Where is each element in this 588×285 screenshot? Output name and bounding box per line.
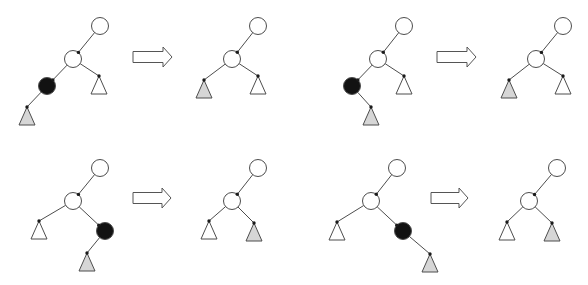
tree-edge bbox=[238, 207, 254, 223]
tree-after bbox=[501, 18, 572, 99]
tree-edge bbox=[377, 207, 397, 225]
tree-before bbox=[31, 160, 114, 272]
tree-edge bbox=[87, 238, 100, 253]
edge-pointer-dot-icon bbox=[202, 78, 205, 81]
edge-pointer-dot-icon bbox=[256, 74, 259, 77]
edge-pointer-dot-icon bbox=[533, 193, 536, 196]
edge-pointer-dot-icon bbox=[97, 223, 100, 226]
tree-edge bbox=[80, 64, 99, 76]
tree-edge bbox=[237, 175, 252, 195]
edge-pointer-dot-icon bbox=[382, 51, 385, 54]
tree-before bbox=[19, 18, 109, 126]
tree-edge bbox=[385, 64, 404, 76]
tree-node-white-icon bbox=[92, 160, 109, 177]
tree-node-white-icon bbox=[389, 160, 406, 177]
tree-edge bbox=[535, 207, 552, 223]
tree-edge bbox=[53, 65, 67, 80]
tree-node-white-icon bbox=[92, 18, 109, 35]
tree-node-white-icon bbox=[250, 18, 267, 35]
edge-pointer-dot-icon bbox=[252, 221, 255, 224]
edge-pointer-dot-icon bbox=[395, 223, 398, 226]
transformation-case-left-right bbox=[344, 18, 572, 126]
subtree-triangle-white-icon bbox=[396, 76, 412, 94]
tree-edge bbox=[78, 33, 94, 53]
tree-edge bbox=[358, 65, 372, 80]
edge-pointer-dot-icon bbox=[37, 219, 40, 222]
subtree-triangle-white-icon bbox=[250, 76, 266, 94]
subtree-triangle-gray-icon bbox=[422, 254, 438, 272]
subtree-triangle-gray-icon bbox=[501, 80, 517, 98]
transform-arrow-icon bbox=[133, 47, 172, 67]
edge-pointer-dot-icon bbox=[236, 193, 239, 196]
transformation-case-right-right bbox=[329, 160, 566, 273]
subtree-triangle-white-icon bbox=[555, 76, 571, 94]
tree-edge bbox=[383, 33, 398, 53]
tree-before bbox=[329, 160, 438, 273]
tree-after bbox=[499, 160, 566, 242]
subtree-triangle-gray-icon bbox=[19, 107, 35, 125]
subtree-triangle-gray-icon bbox=[246, 223, 262, 241]
tree-edge bbox=[39, 205, 66, 221]
edge-pointer-dot-icon bbox=[550, 221, 553, 224]
edge-pointer-dot-icon bbox=[51, 78, 54, 81]
edge-pointer-dot-icon bbox=[507, 78, 510, 81]
tree-edge bbox=[209, 207, 226, 221]
edge-pointer-dot-icon bbox=[25, 105, 28, 108]
transform-arrow-icon bbox=[437, 47, 476, 67]
edge-pointer-dot-icon bbox=[428, 252, 431, 255]
edge-pointer-dot-icon bbox=[97, 74, 100, 77]
tree-edge bbox=[337, 205, 364, 222]
edge-pointer-dot-icon bbox=[236, 51, 239, 54]
edge-pointer-dot-icon bbox=[402, 74, 405, 77]
tree-transformation-diagram bbox=[0, 0, 588, 285]
tree-edge bbox=[376, 175, 391, 195]
transformation-case-right-left bbox=[31, 160, 267, 272]
tree-edge bbox=[204, 64, 225, 80]
tree-edge bbox=[239, 64, 258, 76]
transform-arrow-icon bbox=[133, 188, 171, 208]
tree-edge bbox=[543, 64, 563, 76]
subtree-triangle-white-icon bbox=[329, 222, 345, 240]
tree-edge bbox=[541, 33, 557, 53]
tree-edge bbox=[507, 207, 523, 222]
transformation-case-left-left bbox=[19, 18, 267, 126]
subtree-triangle-gray-icon bbox=[544, 223, 560, 241]
subtree-triangle-gray-icon bbox=[196, 80, 212, 98]
tree-node-white-icon bbox=[549, 160, 566, 177]
edge-pointer-dot-icon bbox=[375, 193, 378, 196]
edge-pointer-dot-icon bbox=[77, 193, 80, 196]
tree-edge bbox=[79, 207, 99, 225]
tree-edge bbox=[237, 33, 252, 53]
edge-pointer-dot-icon bbox=[77, 51, 80, 54]
tree-after bbox=[196, 18, 267, 99]
tree-node-white-icon bbox=[555, 18, 572, 35]
tree-edge bbox=[409, 237, 430, 254]
edge-pointer-dot-icon bbox=[356, 78, 359, 81]
tree-edge bbox=[509, 64, 529, 80]
edge-pointer-dot-icon bbox=[207, 219, 210, 222]
edge-pointer-dot-icon bbox=[540, 51, 543, 54]
subtree-triangle-white-icon bbox=[91, 76, 107, 94]
transform-arrow-icon bbox=[431, 188, 468, 208]
subtree-triangle-gray-icon bbox=[363, 107, 379, 125]
tree-node-white-icon bbox=[396, 18, 413, 35]
subtree-triangle-white-icon bbox=[499, 222, 515, 240]
subtree-triangle-white-icon bbox=[201, 221, 217, 239]
edge-pointer-dot-icon bbox=[561, 74, 564, 77]
subtree-triangle-gray-icon bbox=[79, 253, 95, 271]
tree-edge bbox=[78, 175, 94, 195]
edge-pointer-dot-icon bbox=[505, 220, 508, 223]
tree-edge bbox=[534, 174, 551, 194]
tree-node-white-icon bbox=[250, 160, 267, 177]
edge-pointer-dot-icon bbox=[369, 105, 372, 108]
tree-after bbox=[201, 160, 267, 242]
tree-before bbox=[344, 18, 413, 126]
subtree-triangle-white-icon bbox=[31, 221, 47, 239]
edge-pointer-dot-icon bbox=[85, 251, 88, 254]
tree-edge bbox=[358, 92, 371, 107]
edge-pointer-dot-icon bbox=[335, 220, 338, 223]
tree-edge bbox=[27, 92, 41, 107]
